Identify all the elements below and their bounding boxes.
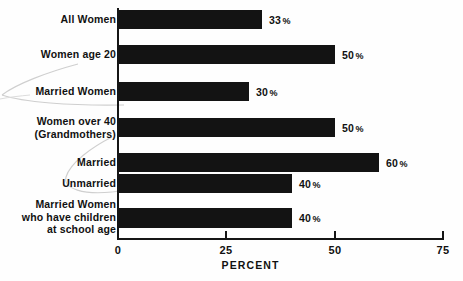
percent-sign: % <box>313 180 321 190</box>
bar-value-label: 40% <box>299 178 321 190</box>
bar-value-number: 33 <box>269 14 281 26</box>
bar <box>119 174 292 193</box>
bar-value-label: 33% <box>269 14 291 26</box>
category-label: Married Women <box>35 85 116 98</box>
percent-sign: % <box>270 88 278 98</box>
x-axis-title: PERCENT <box>0 259 463 271</box>
bar <box>119 208 292 228</box>
bar-value-label: 50% <box>342 49 364 61</box>
category-label: Women over 40 (Grandmothers) <box>35 115 116 140</box>
bar-value-label: 50% <box>342 122 364 134</box>
bar <box>119 82 249 101</box>
percent-sign: % <box>313 214 321 224</box>
bar-value-number: 60 <box>386 157 398 169</box>
category-label: Unmarried <box>62 177 116 190</box>
bar-value-number: 40 <box>299 212 311 224</box>
bar-value-label: 60% <box>386 157 408 169</box>
category-label: Married <box>77 156 116 169</box>
bar <box>119 118 335 137</box>
x-axis-tick <box>334 231 336 238</box>
bar-chart: All Women Women age 20 Married Women Wom… <box>0 0 463 281</box>
x-axis-tick <box>117 231 119 238</box>
x-axis-tick-label: 75 <box>437 244 450 256</box>
bar-value-label: 40% <box>299 212 321 224</box>
percent-sign: % <box>356 124 364 134</box>
category-label: All Women <box>61 13 116 26</box>
x-axis-title-text: PERCENT <box>222 259 280 271</box>
bar <box>119 10 262 29</box>
bar-value-number: 40 <box>299 178 311 190</box>
category-label: Women age 20 <box>41 48 116 61</box>
x-axis-tick <box>442 231 444 238</box>
bar-value-label: 30% <box>256 86 278 98</box>
x-axis-tick <box>225 231 227 238</box>
x-axis-tick-label: 50 <box>329 244 342 256</box>
bar-value-number: 30 <box>256 86 268 98</box>
bar-value-number: 50 <box>342 122 354 134</box>
y-axis-line <box>117 8 119 239</box>
bar-value-number: 50 <box>342 49 354 61</box>
bar <box>119 45 335 64</box>
percent-sign: % <box>400 159 408 169</box>
category-label: Married Women who have children at schoo… <box>22 198 116 236</box>
x-axis-tick-label: 25 <box>220 244 233 256</box>
x-axis-tick-label: 0 <box>115 244 121 256</box>
percent-sign: % <box>283 16 291 26</box>
x-axis-line <box>117 238 444 240</box>
chart-page: All Women Women age 20 Married Women Wom… <box>0 0 463 281</box>
percent-sign: % <box>356 51 364 61</box>
bar <box>119 153 379 172</box>
